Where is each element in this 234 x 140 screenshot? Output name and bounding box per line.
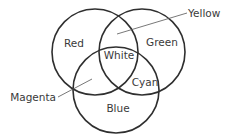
label-magenta: Magenta xyxy=(10,91,56,103)
label-blue: Blue xyxy=(106,102,129,114)
label-white: White xyxy=(104,49,135,61)
label-green: Green xyxy=(146,36,178,48)
label-cyan: Cyan xyxy=(132,76,159,88)
label-yellow: Yellow xyxy=(187,7,221,19)
venn-diagram: Red Green Blue White Cyan Yellow Magenta xyxy=(0,0,234,140)
label-red: Red xyxy=(64,37,84,49)
